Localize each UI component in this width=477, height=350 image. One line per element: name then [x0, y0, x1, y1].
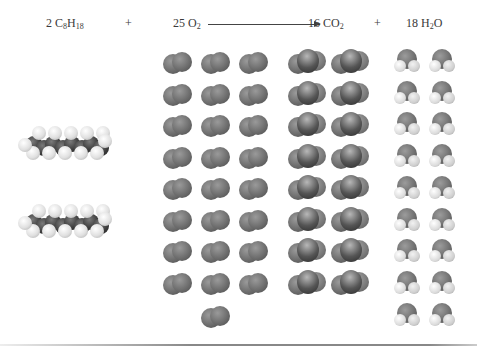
water-molecule-icon: [394, 176, 420, 200]
carbon-dioxide-molecule-icon: [288, 144, 326, 170]
water-molecule-icon: [429, 81, 455, 105]
oxygen-molecule-icon: [201, 147, 229, 169]
water-molecule-icon: [394, 81, 420, 105]
oxygen-molecule-icon: [163, 84, 191, 106]
oxygen-molecule-icon: [163, 210, 191, 232]
plus-sign-1: +: [125, 16, 132, 31]
oxygen-molecule-icon: [201, 210, 229, 232]
product-water-label: 18 H2O: [406, 16, 442, 31]
oxygen-molecule-icon: [163, 52, 191, 74]
carbon-dioxide-molecule-icon: [331, 49, 369, 75]
carbon-dioxide-molecule-icon: [331, 81, 369, 107]
water-molecule-icon: [429, 271, 455, 295]
carbon-dioxide-molecule-icon: [288, 238, 326, 264]
water-molecule-icon: [429, 49, 455, 73]
water-molecule-icon: [394, 144, 420, 168]
carbon-dioxide-molecule-icon: [288, 81, 326, 107]
water-molecule-icon: [394, 271, 420, 295]
carbon-dioxide-molecule-icon: [288, 49, 326, 75]
oxygen-molecule-icon: [201, 273, 229, 295]
carbon-dioxide-molecule-icon: [331, 112, 369, 138]
oxygen-molecule-icon: [163, 241, 191, 263]
oxygen-molecule-icon: [201, 178, 229, 200]
water-molecule-icon: [394, 49, 420, 73]
oxygen-molecule-icon: [163, 273, 191, 295]
oxygen-molecule-icon: [201, 306, 229, 328]
reactant-oxygen-label: 25 O2: [173, 16, 201, 31]
oxygen-molecule-icon: [163, 115, 191, 137]
oxygen-molecule-icon: [201, 52, 229, 74]
oxygen-molecule-icon: [201, 84, 229, 106]
water-molecule-icon: [429, 176, 455, 200]
carbon-dioxide-molecule-icon: [331, 238, 369, 264]
water-molecule-icon: [429, 303, 455, 327]
reaction-arrow-icon: [208, 24, 320, 25]
plus-sign-2: +: [374, 16, 381, 31]
oxygen-molecule-icon: [239, 273, 267, 295]
bottom-divider: [0, 344, 477, 346]
water-molecule-icon: [394, 112, 420, 136]
oxygen-molecule-icon: [239, 241, 267, 263]
oxygen-molecule-icon: [201, 241, 229, 263]
water-molecule-icon: [394, 239, 420, 263]
oxygen-molecule-icon: [163, 147, 191, 169]
oxygen-molecule-icon: [239, 178, 267, 200]
oxygen-molecule-icon: [201, 115, 229, 137]
carbon-dioxide-molecule-icon: [288, 270, 326, 296]
product-co2-label: 16 CO2: [308, 16, 344, 31]
octane-molecule-icon: [18, 202, 110, 242]
water-molecule-icon: [429, 208, 455, 232]
oxygen-molecule-icon: [239, 52, 267, 74]
oxygen-molecule-icon: [239, 147, 267, 169]
octane-molecule-icon: [18, 124, 110, 164]
carbon-dioxide-molecule-icon: [288, 175, 326, 201]
water-molecule-icon: [394, 303, 420, 327]
oxygen-molecule-icon: [239, 84, 267, 106]
carbon-dioxide-molecule-icon: [288, 112, 326, 138]
water-molecule-icon: [429, 144, 455, 168]
carbon-dioxide-molecule-icon: [331, 270, 369, 296]
oxygen-molecule-icon: [239, 210, 267, 232]
water-molecule-icon: [429, 239, 455, 263]
water-molecule-icon: [429, 112, 455, 136]
oxygen-molecule-icon: [239, 115, 267, 137]
carbon-dioxide-molecule-icon: [331, 175, 369, 201]
oxygen-molecule-icon: [163, 178, 191, 200]
carbon-dioxide-molecule-icon: [331, 207, 369, 233]
water-molecule-icon: [394, 208, 420, 232]
reactant-octane-label: 2 C8H18: [46, 16, 84, 31]
carbon-dioxide-molecule-icon: [331, 144, 369, 170]
carbon-dioxide-molecule-icon: [288, 207, 326, 233]
